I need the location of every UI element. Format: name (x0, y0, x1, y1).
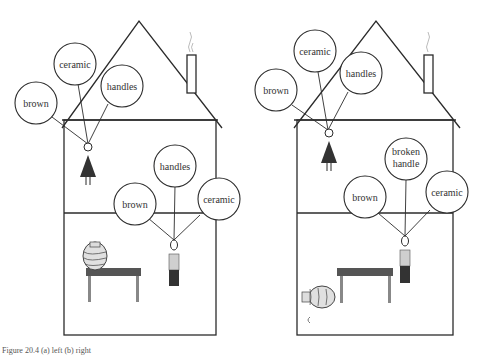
svg-text:brown: brown (23, 98, 49, 109)
smoke-icon (189, 32, 192, 52)
diagram: brown ceramic handles brown handles cera… (0, 0, 484, 357)
man-figure (400, 236, 410, 283)
left-chimney (187, 55, 196, 93)
svg-text:ceramic: ceramic (431, 187, 463, 198)
svg-text:broken: broken (392, 146, 420, 157)
woman-figure (80, 143, 96, 185)
fallen-vase-icon (302, 286, 335, 323)
left-walls (64, 120, 216, 335)
svg-text:ceramic: ceramic (299, 46, 331, 57)
figure-caption: Figure 20.4 (a) left (b) right (2, 346, 91, 355)
svg-text:ceramic: ceramic (59, 59, 91, 70)
right-table (337, 268, 393, 303)
smoke-icon (427, 32, 430, 52)
svg-text:brown: brown (352, 192, 378, 203)
woman-figure (321, 129, 337, 171)
svg-text:handles: handles (107, 81, 138, 92)
left-table (86, 268, 141, 302)
broken-handle-icon (308, 317, 310, 323)
svg-text:brown: brown (122, 199, 148, 210)
svg-text:ceramic: ceramic (203, 194, 235, 205)
vase-icon (83, 242, 107, 270)
svg-text:handles: handles (160, 161, 191, 172)
svg-text:handles: handles (346, 68, 377, 79)
svg-text:handle: handle (393, 158, 420, 169)
svg-text:brown: brown (263, 85, 289, 96)
man-figure (169, 240, 179, 286)
